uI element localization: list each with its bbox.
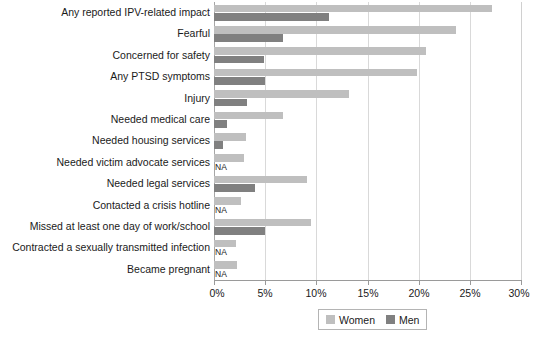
x-axis-labels: 0% 5% 10% 15% 20% 25% 30% xyxy=(0,286,535,300)
category-label: Injury xyxy=(184,88,210,109)
bar-group xyxy=(214,45,521,66)
bar-group: NA xyxy=(214,259,521,280)
legend-label-women: Women xyxy=(339,314,375,326)
chart-row: Needed housing services xyxy=(0,130,535,151)
category-label: Any reported IPV-related impact xyxy=(61,2,210,23)
bar-rows: Any reported IPV-related impact Fearful … xyxy=(0,2,535,280)
legend-item-women: Women xyxy=(326,314,375,326)
category-label: Contacted a crisis hotline xyxy=(93,195,210,216)
chart-row: Any PTSD symptoms xyxy=(0,66,535,87)
bar-men xyxy=(214,13,329,21)
category-label: Needed medical care xyxy=(111,109,210,130)
category-label: Any PTSD symptoms xyxy=(110,66,210,87)
category-label: Contracted a sexually transmitted infect… xyxy=(12,237,210,258)
bar-group: NA xyxy=(214,195,521,216)
bar-women xyxy=(214,47,426,55)
bar-group: NA xyxy=(214,237,521,258)
bar-group: NA xyxy=(214,152,521,173)
chart-row: Needed medical care xyxy=(0,109,535,130)
bar-men xyxy=(214,227,265,235)
x-tick-30 xyxy=(521,280,522,285)
bar-men xyxy=(214,34,283,42)
chart-row: Became pregnant NA xyxy=(0,259,535,280)
x-tick-20 xyxy=(419,280,420,285)
x-axis-tick-label: 30% xyxy=(508,286,529,300)
x-axis-tick-label: 15% xyxy=(357,286,378,300)
legend-swatch-women-icon xyxy=(326,315,335,324)
bar-group xyxy=(214,173,521,194)
category-label: Concerned for safety xyxy=(113,45,210,66)
bar-women xyxy=(214,69,417,77)
x-axis-tick-label: 25% xyxy=(459,286,480,300)
chart-row: Missed at least one day of work/school xyxy=(0,216,535,237)
bar-group xyxy=(214,216,521,237)
legend-swatch-men-icon xyxy=(386,315,395,324)
bar-women xyxy=(214,176,307,184)
category-label: Needed victim advocate services xyxy=(57,152,211,173)
bar-men xyxy=(214,141,223,149)
x-axis-tick-label: 0% xyxy=(209,286,224,300)
x-axis-tick-label: 20% xyxy=(408,286,429,300)
na-label-men: NA xyxy=(215,162,227,172)
na-label-men: NA xyxy=(215,205,227,215)
legend-item-men: Men xyxy=(386,314,419,326)
x-tick-0 xyxy=(214,280,215,285)
bar-men xyxy=(214,77,265,85)
bar-women xyxy=(214,219,311,227)
category-label: Needed housing services xyxy=(92,130,210,151)
x-tick-5 xyxy=(265,280,266,285)
na-label-men: NA xyxy=(215,247,227,257)
category-label: Became pregnant xyxy=(127,259,210,280)
x-axis-tick-label: 10% xyxy=(305,286,326,300)
bar-men xyxy=(214,56,264,64)
chart-row: Concerned for safety xyxy=(0,45,535,66)
bar-men xyxy=(214,120,227,128)
legend-label-men: Men xyxy=(399,314,419,326)
horizontal-bar-chart: Any reported IPV-related impact Fearful … xyxy=(0,0,535,339)
na-label-men: NA xyxy=(215,269,227,279)
x-axis-tick-label: 5% xyxy=(257,286,272,300)
bar-group xyxy=(214,2,521,23)
chart-row: Contracted a sexually transmitted infect… xyxy=(0,237,535,258)
category-label: Fearful xyxy=(177,23,210,44)
chart-row: Contacted a crisis hotline NA xyxy=(0,195,535,216)
bar-group xyxy=(214,66,521,87)
category-label: Missed at least one day of work/school xyxy=(30,216,210,237)
x-tick-25 xyxy=(470,280,471,285)
bar-group xyxy=(214,130,521,151)
bar-men xyxy=(214,184,255,192)
chart-legend: Women Men xyxy=(318,309,427,330)
bar-group xyxy=(214,88,521,109)
x-tick-10 xyxy=(316,280,317,285)
bar-women xyxy=(214,112,283,120)
chart-row: Needed legal services xyxy=(0,173,535,194)
chart-row: Injury xyxy=(0,88,535,109)
chart-row: Any reported IPV-related impact xyxy=(0,2,535,23)
bar-women xyxy=(214,5,492,13)
bar-women xyxy=(214,133,246,141)
x-tick-15 xyxy=(368,280,369,285)
bar-group xyxy=(214,109,521,130)
chart-row: Fearful xyxy=(0,23,535,44)
bar-men xyxy=(214,99,247,107)
bar-women xyxy=(214,90,349,98)
bar-group xyxy=(214,23,521,44)
bar-women xyxy=(214,26,456,34)
category-label: Needed legal services xyxy=(107,173,210,194)
chart-row: Needed victim advocate services NA xyxy=(0,152,535,173)
